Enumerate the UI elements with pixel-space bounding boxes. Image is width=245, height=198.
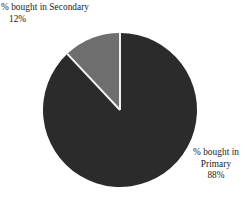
pie-chart: % bought in Secondary 12% % bought in Pr… — [0, 0, 245, 198]
pie-label-secondary: % bought in Secondary 12% — [1, 2, 89, 25]
pie-label-primary-value: 88% — [193, 170, 239, 182]
pie-label-primary: % bought in Primary 88% — [193, 147, 239, 182]
pie-label-secondary-name: % bought in Secondary — [1, 2, 89, 14]
pie-slices — [43, 33, 197, 187]
pie-label-primary-name-line2: Primary — [193, 159, 239, 171]
pie-label-primary-name-line1: % bought in — [193, 147, 239, 159]
pie-label-secondary-value: 12% — [1, 14, 89, 26]
